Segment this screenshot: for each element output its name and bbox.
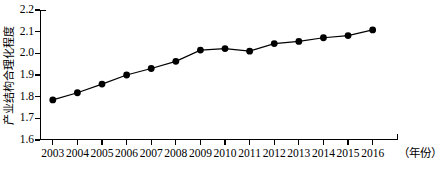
x-tick-2007: [151, 140, 152, 145]
x-tick-2009: [200, 140, 201, 145]
y-tick-1.8: [35, 96, 40, 97]
x-tick-2010: [224, 140, 225, 145]
x-tick-label: 2016: [353, 148, 393, 160]
y-tick-label: 1.6: [0, 134, 34, 146]
x-tick-2006: [126, 140, 127, 145]
x-tick-2008: [175, 140, 176, 145]
x-axis-title: （年份）: [398, 148, 440, 160]
x-tick-2004: [77, 140, 78, 145]
x-tick-2013: [298, 140, 299, 145]
y-tick-label: 1.7: [0, 112, 34, 124]
y-tick-label: 1.8: [0, 91, 34, 103]
y-axis-top-cap: [40, 10, 46, 11]
x-tick-2012: [274, 140, 275, 145]
y-tick-2.1: [35, 31, 40, 32]
y-tick-1.9: [35, 74, 40, 75]
y-tick-label: 2.1: [0, 26, 34, 38]
y-tick-2.0: [35, 53, 40, 54]
y-tick-label: 1.9: [0, 69, 34, 81]
x-tick-2015: [347, 140, 348, 145]
y-tick-1.7: [35, 118, 40, 119]
x-tick-2005: [101, 140, 102, 145]
x-tick-2016: [372, 140, 373, 145]
plot-area: [40, 10, 398, 140]
x-axis-right-cap: [397, 134, 398, 140]
x-tick-2003: [52, 140, 53, 145]
y-tick-label: 2.2: [0, 4, 34, 16]
y-tick-label: 2.0: [0, 47, 34, 59]
y-tick-1.6: [35, 139, 40, 140]
y-tick-2.2: [35, 9, 40, 10]
x-tick-2011: [249, 140, 250, 145]
x-tick-2014: [323, 140, 324, 145]
